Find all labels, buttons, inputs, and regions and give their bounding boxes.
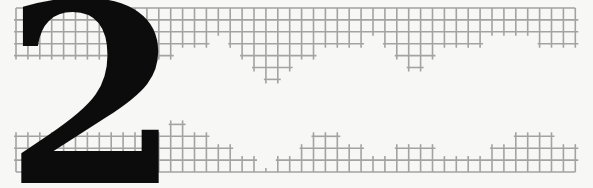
numeral-two-graphic: 2	[0, 0, 593, 188]
numeral-two: 2	[4, 0, 181, 188]
